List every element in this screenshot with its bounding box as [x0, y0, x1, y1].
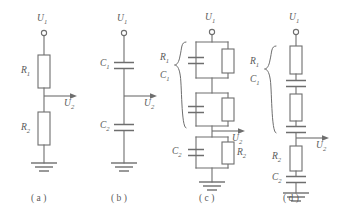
circuit-a-label-r1: R1 [21, 66, 30, 77]
circuit-d-label-c2: C2 [272, 173, 282, 184]
circuit-c-brace [175, 42, 187, 128]
circuit-a-label-u1: U1 [37, 14, 47, 25]
circuit-c-block2-resistor-r1 [222, 98, 234, 121]
circuit-c-label-r1: R1 [160, 53, 169, 64]
circuit-figure: U1 R1 R2 U2 ( a ) U1 C1 C2 U2 ( b ) U1 R… [0, 0, 338, 220]
circuit-a-caption: ( a ) [31, 194, 46, 204]
circuit-b-caption: ( b ) [111, 194, 127, 204]
circuit-b-label-u1: U1 [117, 14, 127, 25]
circuit-a-input-terminal [41, 30, 46, 35]
circuit-c-output-arrowhead [238, 128, 245, 134]
circuit-b-label-u2: U2 [144, 99, 154, 110]
circuit-d-label-u2: U2 [316, 141, 326, 152]
circuit-c-label-c2: C2 [172, 147, 182, 158]
circuit-c-label-r2: R2 [237, 148, 246, 159]
circuit-d-label-r1: R1 [250, 57, 259, 68]
circuit-c-ground-icon [199, 182, 225, 190]
circuit-a-resistor-r2 [38, 112, 50, 145]
circuit-d-resistor-r1-b [290, 94, 302, 121]
circuit-d-capacitor-c2 [286, 177, 306, 183]
circuit-c-block1-resistor-r1 [222, 49, 234, 73]
circuit-c-label-c1: C1 [160, 71, 170, 82]
circuit-d-label-r2: R2 [272, 152, 281, 163]
circuit-b-input-terminal [121, 30, 126, 35]
circuit-d-label-c1: C1 [250, 75, 260, 86]
circuit-d-input-terminal [293, 29, 298, 34]
circuit-d-capacitor-c1-a [286, 81, 306, 87]
circuit-c-input-terminal [209, 29, 214, 34]
circuit-d-brace [265, 46, 277, 133]
circuit-b-capacitor-c2 [114, 125, 134, 131]
circuit-c-label-u1: U1 [205, 13, 215, 24]
circuit-a-resistor-r1 [38, 55, 50, 88]
circuit-d-caption: ( d ) [283, 194, 299, 204]
circuit-drawing-canvas [0, 0, 338, 220]
circuit-d-resistor-r2 [290, 146, 302, 171]
circuit-d-label-u1: U1 [289, 13, 299, 24]
circuit-a-output-arrowhead [70, 93, 77, 99]
circuit-b-label-c1: C1 [100, 59, 110, 70]
circuit-d-resistor-r1-a [290, 46, 302, 74]
circuit-c-caption: ( c ) [199, 194, 214, 204]
circuit-b-label-c2: C2 [100, 121, 110, 132]
circuit-a-label-u2: U2 [64, 99, 74, 110]
circuit-c-group [175, 29, 246, 190]
circuit-a-label-r2: R2 [21, 123, 30, 134]
circuit-a-ground-icon [31, 163, 57, 171]
circuit-d-output-arrowhead [322, 135, 329, 141]
circuit-c-label-u2: U2 [232, 134, 242, 145]
circuit-b-capacitor-c1 [114, 63, 134, 69]
circuit-b-output-arrowhead [150, 93, 157, 99]
circuit-b-ground-icon [111, 163, 137, 171]
circuit-d-capacitor-c1-b [286, 127, 306, 133]
